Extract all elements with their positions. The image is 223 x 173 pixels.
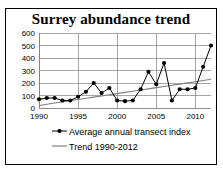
x-axis-tick-labels: 19901995200020052010 (30, 112, 205, 121)
svg-text:1990: 1990 (30, 112, 48, 121)
chart-figure: Surrey abundance trend 01002003004005006… (5, 8, 217, 165)
chart-plot-area: 0100200300400500600 19901995200020052010… (6, 9, 218, 166)
svg-text:Trend 1990-2012: Trend 1990-2012 (69, 142, 138, 152)
svg-text:200: 200 (22, 79, 36, 88)
svg-text:600: 600 (22, 29, 36, 38)
svg-text:2000: 2000 (108, 112, 126, 121)
svg-text:Average annual transect index: Average annual transect index (69, 127, 191, 137)
series-average-annual-transect-index (37, 43, 213, 103)
gridlines (39, 33, 211, 108)
svg-text:1995: 1995 (69, 112, 87, 121)
svg-text:400: 400 (22, 54, 36, 63)
y-axis-tick-labels: 0100200300400500600 (22, 29, 36, 113)
svg-text:100: 100 (22, 92, 36, 101)
svg-text:2010: 2010 (186, 112, 204, 121)
chart-legend: Average annual transect indexTrend 1990-… (52, 127, 191, 152)
svg-text:500: 500 (22, 42, 36, 51)
svg-text:2005: 2005 (147, 112, 165, 121)
svg-text:300: 300 (22, 67, 36, 76)
